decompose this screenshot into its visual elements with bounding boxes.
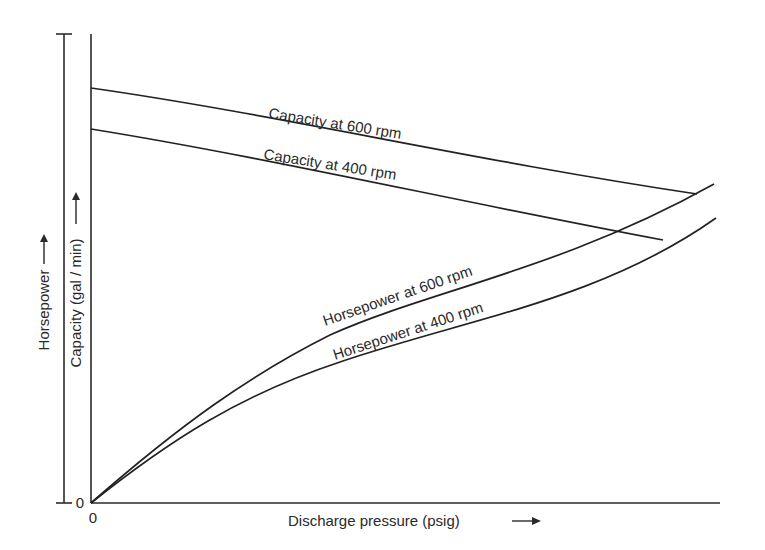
y-zero-tick-label: 0 [76, 494, 84, 511]
chart: 0 0 Horsepower Capacity (gal / min) Disc… [0, 0, 765, 550]
x-axis-label: Discharge pressure (psig) [288, 512, 460, 529]
capacity-400-label: Capacity at 400 rpm [263, 145, 398, 183]
capacity-axis-label: Capacity (gal / min) [67, 238, 84, 367]
capacity-axis-label-group: Capacity (gal / min) [67, 192, 84, 368]
horsepower-400-curve [91, 218, 716, 503]
capacity-400-curve [91, 129, 663, 240]
arrow-up-icon [40, 234, 48, 264]
capacity-600-label: Capacity at 600 rpm [268, 104, 403, 142]
horsepower-axis-label: Horsepower [35, 270, 52, 351]
x-zero-tick-label: 0 [89, 509, 97, 526]
arrow-up-icon [72, 192, 80, 224]
horsepower-axis-label-group: Horsepower [35, 234, 52, 350]
arrow-right-icon [512, 517, 541, 525]
